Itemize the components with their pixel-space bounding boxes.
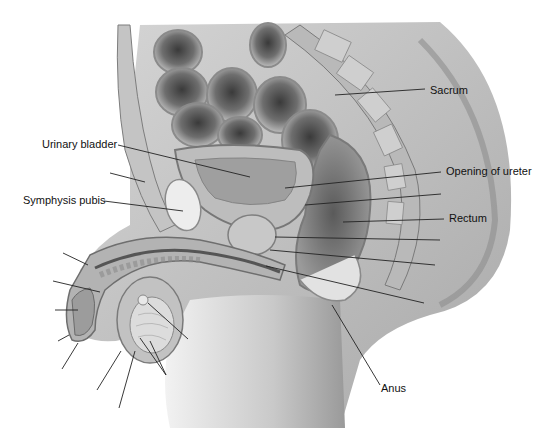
label-anus: Anus [381,382,406,395]
label-symphysis-pubis: Symphysis pubis [23,194,106,207]
label-rectum: Rectum [449,212,487,225]
label-urinary-bladder: Urinary bladder [42,138,117,151]
label-opening-of-ureter: Opening of ureter [446,165,532,178]
label-sacrum: Sacrum [430,84,468,97]
thigh [165,295,345,428]
